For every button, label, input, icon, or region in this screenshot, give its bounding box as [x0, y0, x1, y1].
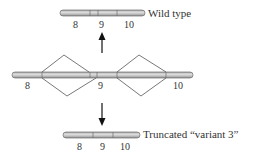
splicing-diagram: Wild type 8 9 10 8 9 10 Truncated “varia… — [0, 0, 257, 158]
top-exon-10-label: 10 — [124, 20, 134, 30]
middle-exon-9-label: 9 — [98, 81, 103, 91]
variant-3-caption: Truncated “variant 3” — [143, 129, 239, 140]
middle-exon-10-label: 10 — [173, 81, 183, 91]
wild-type-transcript — [60, 10, 145, 16]
bottom-exon-8-label: 8 — [77, 142, 82, 152]
variant-3-transcript — [63, 132, 140, 138]
up-arrow-icon — [99, 32, 106, 53]
wild-type-caption: Wild type — [148, 8, 191, 19]
bottom-exon-10-label: 10 — [120, 142, 130, 152]
top-exon-8-label: 8 — [73, 20, 78, 30]
bottom-exon-9-label: 9 — [100, 142, 105, 152]
down-arrow-icon — [99, 103, 106, 126]
pre-mrna-transcript — [12, 72, 193, 78]
top-exon-9-label: 9 — [99, 20, 104, 30]
middle-exon-8-label: 8 — [25, 81, 30, 91]
